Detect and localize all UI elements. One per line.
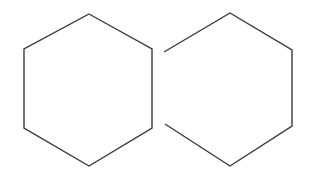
figure-canvas	[0, 0, 314, 176]
hexagon-pair-drawing	[0, 0, 314, 176]
canvas-background	[0, 0, 314, 176]
